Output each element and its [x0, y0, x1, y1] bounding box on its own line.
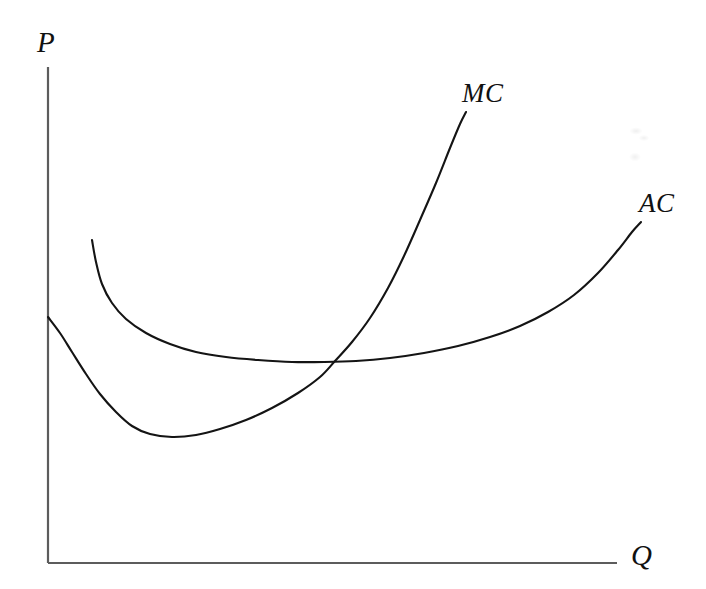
- chart-plot-area: [0, 0, 706, 589]
- ac-curve-label: AC: [639, 190, 675, 217]
- cost-curves-figure: P Q MC AC: [0, 0, 706, 589]
- mc-curve: [48, 112, 466, 437]
- ac-curve: [92, 222, 641, 362]
- x-axis-label: Q: [631, 541, 652, 570]
- mc-curve-label: MC: [462, 80, 504, 107]
- y-axis-label: P: [37, 28, 55, 57]
